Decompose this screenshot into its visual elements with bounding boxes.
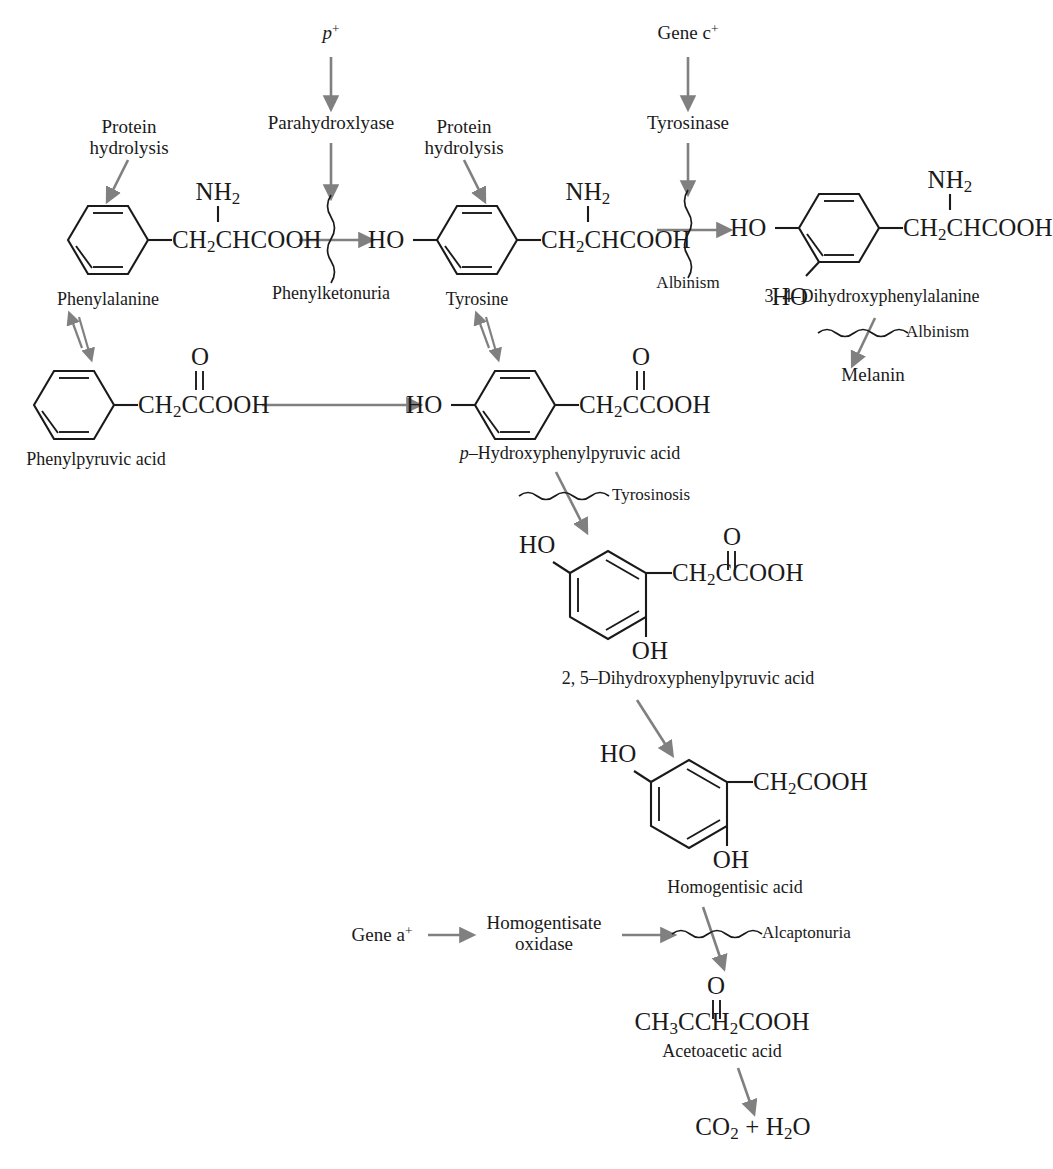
phenylpyruvic-carbonyl-o: O (191, 343, 209, 371)
acetoacetic-carbonyl-o: O (707, 972, 725, 1000)
wavy-block-albinism-melanin (818, 330, 908, 337)
homogentisic-side-chain: CH2COOH (753, 768, 868, 798)
protein-hydrolysis-2-line1: Protein (437, 116, 492, 137)
protein-hydrolysis-1-line1: Protein (102, 116, 157, 137)
gene-p-label: p+ (323, 22, 340, 43)
dihydroxyphenylpyruvic-side-chain: CH2CCOOH (672, 559, 804, 589)
p-hydroxyphenylpyruvic-side-chain: CH2CCOOH (579, 391, 711, 421)
p-hydroxyphenylpyruvic-hydroxyl: HO (406, 391, 442, 419)
gene-a-label: Gene a+ (352, 924, 413, 945)
arrow-protein-hydrolysis-1 (110, 160, 128, 196)
final-products: CO2 + H2O (695, 1113, 810, 1143)
arrow-p-hydroxyphenylpyruvic-down (486, 317, 497, 355)
alcaptonuria-label: Alcaptonuria (762, 923, 851, 942)
arrow-protein-hydrolysis-2 (464, 160, 482, 196)
p-hydroxyphenylpyruvic-carbonyl-o: O (632, 343, 650, 371)
tyrosine-side-chain: CH2CHCOOH (541, 226, 691, 256)
tyrosine-amine: NH2 (566, 178, 611, 208)
protein-hydrolysis-2-label: Protein hydrolysis (424, 116, 503, 159)
p-hydroxyphenylpyruvic-name: p–Hydroxyphenylpyruvic acid (460, 443, 680, 463)
phenylpyruvic-side-chain: CH2CCOOH (138, 391, 270, 421)
arrow-to-homogentisic-acid (637, 700, 669, 750)
gene-c-label: Gene c+ (658, 22, 719, 43)
p-hydroxyphenylpyruvic-carbonyl (637, 371, 644, 390)
phenylpyruvic-carbonyl (196, 371, 203, 390)
dihydroxyphenylpyruvic-hydroxyl-bottom: OH (632, 637, 668, 665)
dopa-hydroxyl-left: HO (730, 214, 766, 242)
dopa-name: 3, 4–Dihydroxyphenylalanine (765, 286, 980, 306)
wavy-block-alcaptonuria (672, 931, 762, 938)
homogentisic-name: Homogentisic acid (667, 877, 802, 897)
homogentisic-hydroxyl-top: HO (600, 740, 636, 768)
protein-hydrolysis-1-label: Protein hydrolysis (89, 116, 168, 159)
homogentisic-hydroxyl-bottom: OH (713, 846, 749, 874)
protein-hydrolysis-2-line2: hydrolysis (424, 137, 503, 158)
acetoacetic-formula: CH3CCH2COOH (634, 1008, 809, 1038)
acetoacetic-name: Acetoacetic acid (662, 1041, 781, 1061)
dopa-amine: NH2 (928, 166, 973, 196)
arrow-phenylpyruvic-down (79, 317, 90, 355)
tyrosine-ring (413, 206, 541, 274)
homogentisic-ring (634, 760, 753, 848)
dopa-side-chain: CH2CHCOOH (903, 214, 1053, 244)
dihydroxyphenylpyruvic-ring (553, 551, 672, 639)
enzyme-tyrosinase-label: Tyrosinase (647, 112, 729, 133)
phenylpyruvic-ring (34, 371, 138, 439)
tyrosine-hydroxyl: HO (368, 226, 404, 254)
tyrosine-name: Tyrosine (446, 289, 509, 309)
tyrosinosis-label: Tyrosinosis (612, 485, 690, 504)
dopa-ring (775, 194, 903, 276)
dihydroxyphenylpyruvic-carbonyl-o: O (723, 523, 741, 551)
wavy-block-tyrosinosis (519, 493, 609, 500)
phenylalanine-side-chain: CH2CHCOOH (172, 226, 322, 256)
protein-hydrolysis-1-line2: hydrolysis (89, 137, 168, 158)
albinism-melanin-label: Albinism (906, 322, 969, 341)
arrow-dopa-to-melanin (855, 318, 875, 360)
p-hydroxyphenylpyruvic-ring (451, 371, 579, 439)
homogentisate-oxidase-label: Homogentisate oxidase (486, 912, 601, 955)
phenylpyruvic-name: Phenylpyruvic acid (26, 449, 165, 469)
dihydroxyphenylpyruvic-hydroxyl-top: HO (519, 531, 555, 559)
arrow-to-final-products (738, 1068, 752, 1108)
dihydroxyphenylpyruvic-name: 2, 5–Dihydroxyphenylpyruvic acid (562, 668, 814, 688)
oxidase-line2: oxidase (515, 933, 573, 954)
albinism-dopa-label: Albinism (656, 273, 719, 292)
enzyme-parahydroxylase-label: Parahydroxlyase (268, 112, 395, 133)
phenylalanine-ring (68, 206, 172, 274)
melanin-name: Melanin (841, 364, 904, 385)
phenylketonuria-label: Phenylketonuria (272, 283, 390, 303)
phenylalanine-name: Phenylalanine (57, 289, 159, 309)
oxidase-line1: Homogentisate (486, 912, 601, 933)
phenylalanine-amine: NH2 (196, 178, 241, 208)
